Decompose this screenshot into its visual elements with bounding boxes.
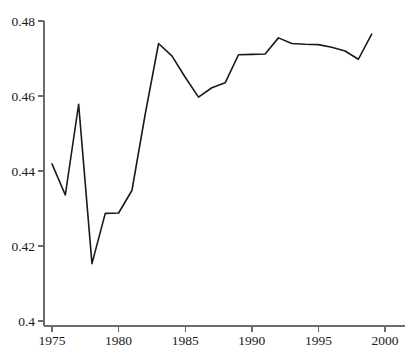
y-tick-label: 0.48 <box>11 14 35 29</box>
x-tick-label: 1980 <box>105 333 132 348</box>
y-tick-label: 0.4 <box>18 314 35 329</box>
x-tick-label: 1995 <box>305 333 332 348</box>
line-chart: 0.40.420.440.460.48 19751980198519901995… <box>0 0 412 364</box>
y-tick-label: 0.46 <box>11 89 35 104</box>
chart-canvas: 0.40.420.440.460.48 19751980198519901995… <box>0 0 412 364</box>
x-tick-label: 2000 <box>372 333 399 348</box>
x-tick-label: 1990 <box>238 333 265 348</box>
x-tick-label: 1985 <box>172 333 199 348</box>
y-tick-label: 0.42 <box>11 239 35 254</box>
x-tick-label: 1975 <box>39 333 66 348</box>
y-tick-label: 0.44 <box>11 164 35 179</box>
